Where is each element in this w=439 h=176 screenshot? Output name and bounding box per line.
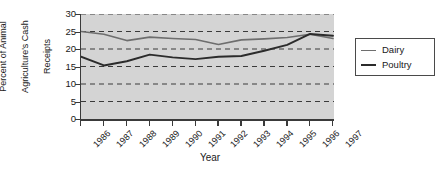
legend-item-poultry[interactable]: Poultry (361, 58, 412, 72)
y-axis-title-line-2: Agriculture's Cash (20, 0, 31, 122)
x-axis-title: Year (160, 152, 260, 163)
chart-figure: Percent of Animal Agriculture's Cash Rec… (0, 0, 439, 176)
plot-area (80, 14, 334, 119)
y-tick-label: 15 (54, 62, 76, 72)
x-tick-label: 1988 (138, 129, 159, 150)
y-tick-label: 30 (54, 9, 76, 19)
y-axis-tick-labels: 30 25 20 15 10 5 0 (54, 0, 76, 176)
legend-line-swatch-icon (361, 50, 376, 51)
x-tick-mark (149, 120, 150, 126)
x-tick-label: 1993 (252, 129, 273, 150)
x-tick-label: 1997 (344, 129, 365, 150)
x-tick-mark (172, 120, 173, 126)
x-tick-mark (126, 120, 127, 126)
legend-item-dairy[interactable]: Dairy (361, 43, 404, 57)
y-tick-label: 10 (54, 79, 76, 89)
x-tick-mark (332, 120, 333, 126)
y-tick-label: 20 (54, 44, 76, 54)
y-axis-title-line-1: Percent of Animal (0, 0, 9, 122)
chart-legend: Dairy Poultry (355, 38, 435, 76)
x-tick-mark (286, 120, 287, 126)
x-tick-label: 1987 (115, 129, 136, 150)
x-tick-label: 1991 (206, 129, 227, 150)
x-tick-mark (217, 120, 218, 126)
series-line-dairy (81, 32, 333, 45)
x-tick-mark (263, 120, 264, 126)
x-tick-mark (195, 120, 196, 126)
y-tick-label: 5 (54, 97, 76, 107)
x-tick-label: 1986 (92, 129, 113, 150)
y-tick-label: 0 (54, 114, 76, 124)
y-tick-label: 25 (54, 27, 76, 37)
x-tick-label: 1996 (321, 129, 342, 150)
legend-line-swatch-icon (361, 64, 376, 66)
plot-svg (81, 14, 334, 119)
y-axis-title-line-3: Receipts (42, 0, 53, 122)
x-axis-line (80, 119, 334, 121)
legend-label: Poultry (382, 60, 412, 70)
x-tick-label: 1992 (229, 129, 250, 150)
x-tick-label: 1989 (161, 129, 182, 150)
x-tick-label: 1995 (298, 129, 319, 150)
legend-label: Dairy (382, 45, 404, 55)
x-tick-mark (80, 120, 81, 126)
x-tick-mark (103, 120, 104, 126)
x-tick-mark (309, 120, 310, 126)
x-tick-mark (240, 120, 241, 126)
x-tick-label: 1990 (183, 129, 204, 150)
x-tick-label: 1994 (275, 129, 296, 150)
